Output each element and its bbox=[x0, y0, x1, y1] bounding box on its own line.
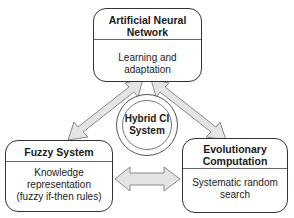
node-title: Evolutionary Computation bbox=[183, 143, 287, 167]
node-title: Fuzzy System bbox=[6, 146, 112, 158]
node-evolutionary-computation: Evolutionary Computation Systematic rand… bbox=[182, 138, 288, 213]
node-description: Learning and adaptation bbox=[94, 52, 201, 76]
node-divider bbox=[183, 168, 287, 169]
hybrid-ci-diagram: Hybrid CI System Artificial Neural Netwo… bbox=[0, 0, 294, 218]
hub-circle: Hybrid CI System bbox=[122, 100, 172, 150]
node-divider bbox=[6, 161, 112, 162]
hub-label-line1: Hybrid CI bbox=[125, 113, 169, 125]
arrow-fuzzy-ec bbox=[115, 167, 180, 191]
node-description: Knowledge representation (fuzzy if-then … bbox=[6, 167, 112, 203]
hub-label-line2: System bbox=[125, 125, 169, 137]
node-artificial-neural-network: Artificial Neural Network Learning and a… bbox=[93, 8, 202, 82]
node-fuzzy-system: Fuzzy System Knowledge representation (f… bbox=[5, 140, 113, 212]
node-title: Artificial Neural Network bbox=[94, 14, 201, 38]
node-divider bbox=[94, 39, 201, 40]
node-description: Systematic random search bbox=[183, 177, 287, 201]
